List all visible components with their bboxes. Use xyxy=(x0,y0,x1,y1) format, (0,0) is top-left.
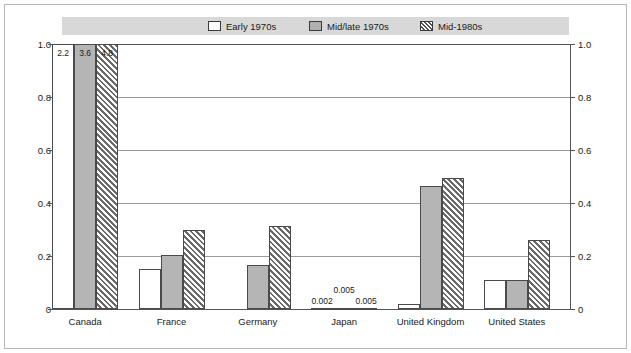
bar-japan-mid-1980s xyxy=(355,308,377,310)
y-tick-label-right: 1.0 xyxy=(578,39,591,50)
gray-square-icon xyxy=(309,21,322,31)
legend-item-mid-late-1970s[interactable]: Mid/late 1970s xyxy=(309,21,389,32)
bar-value-label: 0.002 xyxy=(312,296,333,306)
y-tick-mark-left xyxy=(48,309,52,310)
bar-united-states-mid-1980s xyxy=(528,240,550,309)
y-tick-mark-right xyxy=(571,203,575,204)
bar-value-label: 0.005 xyxy=(356,296,377,306)
chart-figure: Early 1970s Mid/late 1970s Mid-1980s 1.0… xyxy=(0,0,631,353)
gridline xyxy=(52,97,570,98)
legend-item-early-1970s[interactable]: Early 1970s xyxy=(208,21,276,32)
y-tick-label-right: 0.4 xyxy=(578,198,591,209)
bar-united-kingdom-mid-1980s xyxy=(442,178,464,309)
y-tick-mark-right xyxy=(571,44,575,45)
x-axis-label-united-kingdom: United Kingdom xyxy=(397,316,465,327)
bar-value-label: 3.6 xyxy=(79,48,91,58)
bar-france-mid-late-1970s xyxy=(161,255,183,309)
legend-label: Early 1970s xyxy=(226,21,276,32)
y-tick-label-right: 0.8 xyxy=(578,92,591,103)
y-tick-mark-right xyxy=(571,97,575,98)
bar-canada-early-1970s xyxy=(52,44,74,309)
x-axis-label-japan: Japan xyxy=(331,316,357,327)
bar-canada-mid-late-1970s xyxy=(74,44,96,309)
bar-value-label: 0.005 xyxy=(334,285,355,295)
gridline xyxy=(52,256,570,257)
bar-germany-mid-late-1970s xyxy=(247,265,269,309)
x-axis-label-germany: Germany xyxy=(238,316,277,327)
gridline xyxy=(52,203,570,204)
bar-value-label: 4.8 xyxy=(101,48,113,58)
y-tick-mark-right xyxy=(571,150,575,151)
y-tick-label-right: 0.2 xyxy=(578,251,591,262)
x-axis-label-france: France xyxy=(157,316,187,327)
white-square-icon xyxy=(208,21,221,31)
bar-united-kingdom-early-1970s xyxy=(398,304,420,309)
y-tick-label-right: 0.6 xyxy=(578,145,591,156)
bar-france-early-1970s xyxy=(139,269,161,309)
y-axis-right xyxy=(570,44,571,309)
plot-area xyxy=(52,44,570,309)
bar-france-mid-1980s xyxy=(183,230,205,310)
y-tick-mark-right xyxy=(571,256,575,257)
hatched-square-icon xyxy=(420,21,433,31)
bar-canada-mid-1980s xyxy=(96,44,118,309)
bar-japan-mid-late-1970s xyxy=(333,308,355,310)
legend-label: Mid/late 1970s xyxy=(327,21,389,32)
x-axis-label-united-states: United States xyxy=(488,316,545,327)
y-tick-label-right: 0 xyxy=(578,304,583,315)
gridline xyxy=(52,150,570,151)
legend-item-mid-1980s[interactable]: Mid-1980s xyxy=(420,21,482,32)
bar-united-kingdom-mid-late-1970s xyxy=(420,186,442,309)
bar-united-states-mid-late-1970s xyxy=(506,280,528,309)
bar-germany-mid-1980s xyxy=(269,226,291,309)
x-axis-label-canada: Canada xyxy=(69,316,102,327)
bar-japan-early-1970s xyxy=(311,308,333,310)
y-tick-mark-right xyxy=(571,309,575,310)
bar-value-label: 2.2 xyxy=(57,48,69,58)
bar-united-states-early-1970s xyxy=(484,280,506,309)
legend-label: Mid-1980s xyxy=(438,21,482,32)
chart-legend: Early 1970s Mid/late 1970s Mid-1980s xyxy=(62,17,569,35)
